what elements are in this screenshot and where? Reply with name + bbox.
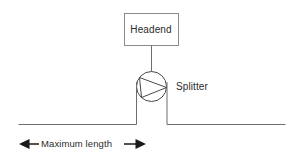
splitter-label: Splitter bbox=[176, 81, 208, 92]
diagram-canvas: Headend Splitter Maximum length bbox=[0, 0, 296, 162]
dimension-left-arrowhead-icon bbox=[19, 139, 30, 149]
headend-label: Headend bbox=[124, 24, 178, 35]
dimension-label: Maximum length bbox=[41, 138, 112, 149]
dimension-right-arrowhead-icon bbox=[136, 139, 147, 149]
